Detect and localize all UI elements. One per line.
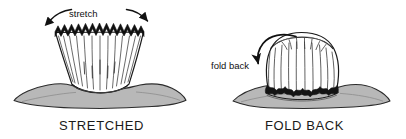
caption-stretched: STRETCHED <box>0 118 203 133</box>
stretch-arrow-icon <box>51 10 148 21</box>
panel-stretched <box>14 10 186 109</box>
illustration-figure: stretch fold back STRETCHED FOLD BACK <box>0 0 406 139</box>
fold-back-annotation-label: fold back <box>211 60 249 71</box>
panel-fold-back <box>233 33 390 109</box>
stretched-tube-shape <box>56 32 144 93</box>
caption-fold-back: FOLD BACK <box>203 118 406 133</box>
stretch-annotation-label: stretch <box>69 8 98 19</box>
